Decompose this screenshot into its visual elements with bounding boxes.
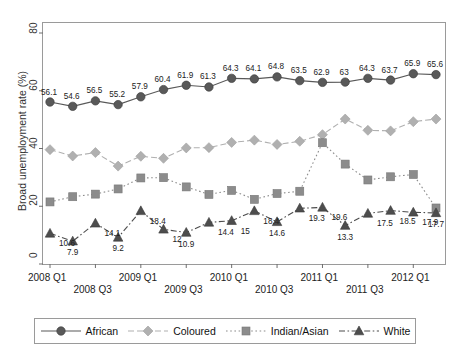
data-point-square[interactable] — [387, 173, 395, 181]
data-point-circle[interactable] — [409, 70, 417, 78]
data-point-triangle[interactable] — [386, 206, 396, 215]
data-point-circle[interactable] — [46, 98, 54, 106]
data-point-diamond[interactable] — [340, 114, 350, 124]
data-label: 55.2 — [109, 90, 125, 99]
data-point-diamond[interactable] — [113, 161, 123, 171]
data-point-diamond[interactable] — [181, 143, 191, 153]
data-label: 18.4 — [150, 217, 166, 226]
data-point-triangle[interactable] — [318, 202, 328, 211]
series-white: 10.67.914.19.218.41210.914.41518.414.619… — [45, 202, 444, 257]
data-point-square[interactable] — [114, 185, 122, 193]
data-point-triangle[interactable] — [204, 217, 214, 226]
data-point-circle[interactable] — [205, 83, 213, 91]
data-point-square[interactable] — [160, 174, 168, 182]
data-label: 57.9 — [132, 82, 148, 91]
data-point-square[interactable] — [364, 176, 372, 184]
data-point-circle[interactable] — [296, 76, 304, 84]
data-label: 19.6 — [331, 213, 347, 222]
data-point-diamond[interactable] — [408, 117, 418, 127]
data-label: 64.3 — [223, 64, 239, 73]
data-point-diamond[interactable] — [227, 137, 237, 147]
data-point-square[interactable] — [318, 139, 326, 147]
data-point-triangle[interactable] — [91, 218, 101, 227]
data-point-diamond[interactable] — [431, 114, 441, 124]
data-point-diamond[interactable] — [386, 126, 396, 136]
data-point-circle[interactable] — [114, 100, 122, 108]
data-point-square[interactable] — [91, 190, 99, 198]
data-point-circle[interactable] — [364, 74, 372, 82]
data-point-circle[interactable] — [137, 93, 145, 101]
data-point-circle[interactable] — [250, 75, 258, 83]
data-point-square[interactable] — [296, 187, 304, 195]
data-point-circle[interactable] — [318, 78, 326, 86]
data-point-diamond[interactable] — [136, 151, 146, 161]
data-point-square[interactable] — [273, 190, 281, 198]
data-point-triangle[interactable] — [45, 228, 55, 237]
data-point-triangle[interactable] — [363, 208, 373, 217]
data-point-diamond[interactable] — [317, 130, 327, 140]
data-point-square[interactable] — [205, 190, 213, 198]
data-label: 13.3 — [337, 233, 353, 242]
series-line — [50, 74, 436, 107]
data-label: 18.5 — [400, 217, 416, 226]
data-point-square[interactable] — [341, 160, 349, 168]
legend-item-indian-asian[interactable]: Indian/Asian — [225, 324, 329, 338]
data-label: 56.5 — [86, 86, 102, 95]
legend-item-african[interactable]: African — [40, 324, 119, 338]
legend-marker-circle — [56, 327, 64, 335]
data-point-circle[interactable] — [273, 73, 281, 81]
data-point-square[interactable] — [250, 195, 258, 203]
data-point-triangle[interactable] — [181, 228, 191, 237]
data-label: 7.9 — [67, 248, 79, 257]
series-indian-asian — [46, 139, 440, 212]
data-point-triangle[interactable] — [227, 216, 237, 225]
data-point-diamond[interactable] — [249, 135, 259, 145]
legend-swatch — [127, 324, 169, 338]
legend-item-coloured[interactable]: Coloured — [127, 324, 216, 338]
data-point-diamond[interactable] — [45, 145, 55, 155]
legend-marker-square — [242, 327, 250, 335]
data-point-diamond[interactable] — [159, 153, 169, 163]
x-tick-label-2008-Q3: 2008 Q3 — [73, 284, 111, 295]
data-label: 62.9 — [314, 68, 330, 77]
legend-label: Indian/Asian — [271, 325, 329, 337]
chart-svg: 56.154.656.555.257.960.461.961.364.364.1… — [0, 0, 450, 356]
data-point-circle[interactable] — [182, 81, 190, 89]
data-point-diamond[interactable] — [295, 136, 305, 146]
legend-swatch — [40, 324, 82, 338]
data-point-circle[interactable] — [432, 70, 440, 78]
data-point-square[interactable] — [228, 186, 236, 194]
legend-label: African — [86, 325, 119, 337]
data-point-diamond[interactable] — [204, 143, 214, 153]
data-point-circle[interactable] — [91, 97, 99, 105]
data-point-diamond[interactable] — [68, 151, 78, 161]
data-label: 60.4 — [155, 75, 171, 84]
data-point-triangle[interactable] — [250, 206, 260, 215]
legend-marker-diamond — [143, 326, 153, 336]
data-label: 64.8 — [268, 62, 284, 71]
data-point-diamond[interactable] — [363, 125, 373, 135]
data-point-diamond[interactable] — [90, 148, 100, 158]
data-point-square[interactable] — [409, 170, 417, 178]
data-point-circle[interactable] — [159, 85, 167, 93]
data-point-circle[interactable] — [227, 74, 235, 82]
chart-container: Broad unemployment rate (%) 80 60 40 20 … — [0, 0, 450, 356]
x-tick-label-2011-Q3: 2011 Q3 — [346, 284, 384, 295]
legend-swatch — [338, 324, 380, 338]
data-point-circle[interactable] — [341, 78, 349, 86]
data-point-diamond[interactable] — [272, 139, 282, 149]
data-label: 64.3 — [359, 64, 375, 73]
data-point-triangle[interactable] — [136, 206, 146, 215]
data-point-square[interactable] — [69, 193, 77, 201]
data-point-triangle[interactable] — [409, 207, 419, 216]
legend-item-white[interactable]: White — [338, 324, 411, 338]
data-point-square[interactable] — [182, 183, 190, 191]
data-point-circle[interactable] — [386, 76, 394, 84]
data-point-square[interactable] — [46, 198, 54, 206]
series-african: 56.154.656.555.257.960.461.961.364.364.1… — [41, 59, 443, 110]
data-point-square[interactable] — [137, 174, 145, 182]
data-point-circle[interactable] — [69, 102, 77, 110]
series-line — [50, 119, 436, 166]
x-tick-label-2009-Q1: 2009 Q1 — [119, 272, 157, 283]
data-label: 65.9 — [404, 59, 420, 68]
